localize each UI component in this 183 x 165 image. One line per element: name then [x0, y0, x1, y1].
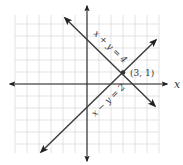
x-axis-label: x [174, 78, 181, 91]
line1-label: x + y = 4 [92, 28, 130, 65]
coordinate-plane: x x + y = 4 x − y = 2 (3, 1) [0, 0, 183, 165]
intersection-point [121, 70, 126, 75]
intersection-label: (3, 1) [130, 68, 154, 78]
